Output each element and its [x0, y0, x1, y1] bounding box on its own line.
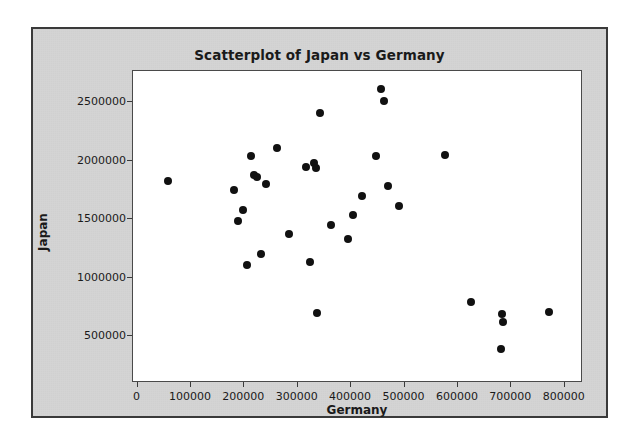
x-tick-label: 800000: [543, 390, 585, 403]
x-tick-label: 300000: [276, 390, 318, 403]
x-tick-label: 500000: [383, 390, 425, 403]
x-tick-mark: [297, 382, 298, 387]
x-tick-label: 200000: [222, 390, 264, 403]
x-tick-label: 0: [133, 390, 140, 403]
x-tick-mark: [243, 382, 244, 387]
x-tick-label: 400000: [329, 390, 371, 403]
x-tick-mark: [137, 382, 138, 387]
scatterplot-screenshot: Scatterplot of Japan vs Germany Japan 50…: [0, 0, 639, 444]
x-tick-mark: [350, 382, 351, 387]
x-tick-mark: [457, 382, 458, 387]
x-axis-title: Germany: [132, 403, 582, 417]
x-tick-label: 700000: [489, 390, 531, 403]
x-tick-mark: [190, 382, 191, 387]
x-tick-mark: [404, 382, 405, 387]
graph-panel: Scatterplot of Japan vs Germany Japan 50…: [31, 27, 608, 418]
x-tick-label: 100000: [169, 390, 211, 403]
x-axis-ticks: 0100000200000300000400000500000600000700…: [33, 29, 606, 420]
x-tick-mark: [564, 382, 565, 387]
x-tick-mark: [510, 382, 511, 387]
x-tick-label: 600000: [436, 390, 478, 403]
